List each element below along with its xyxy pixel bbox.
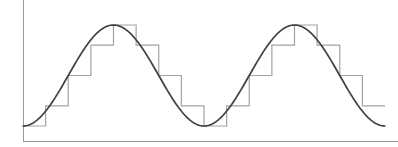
quantization-figure xyxy=(0,0,398,147)
plot-canvas xyxy=(0,0,398,147)
